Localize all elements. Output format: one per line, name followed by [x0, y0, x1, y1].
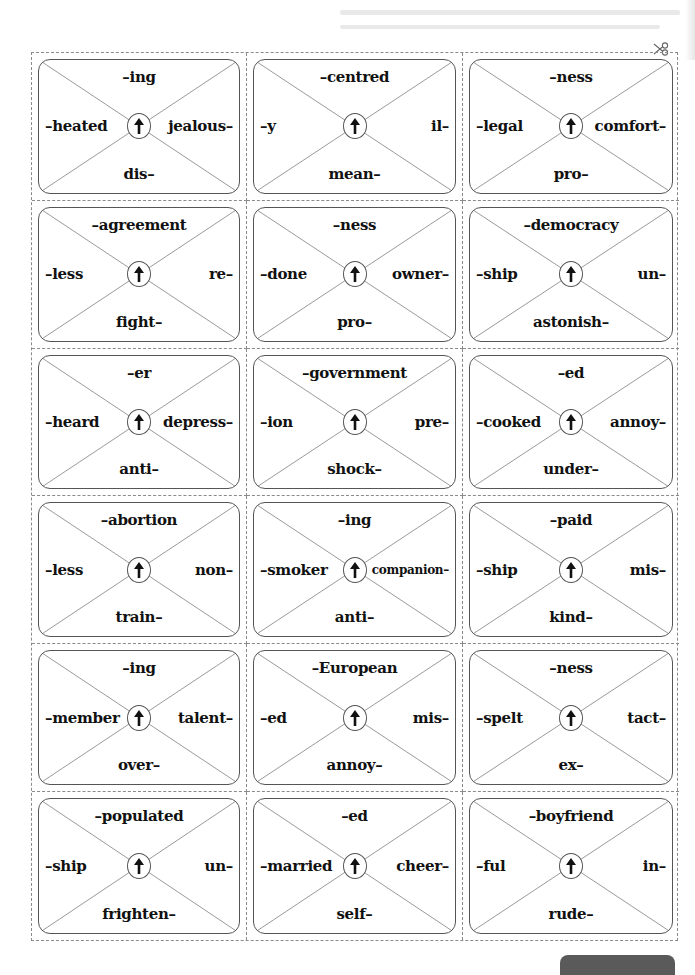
card-bottom-word: dis– [39, 165, 239, 183]
card-right-word: re– [209, 265, 233, 283]
card-left-word: –less [45, 265, 83, 283]
card-left-word: –smoker [260, 561, 328, 579]
card-left-word: –spelt [476, 709, 523, 727]
card-left-word: –heated [45, 117, 108, 135]
card-cell: –government–ionpre–shock– [247, 349, 463, 497]
card-left-word: –cooked [476, 413, 541, 431]
word-formation-card[interactable]: –government–ionpre–shock– [253, 355, 456, 490]
word-formation-card[interactable]: –ed–marriedcheer–self– [253, 798, 456, 934]
card-top-word: –democracy [470, 216, 672, 234]
card-left-word: –ship [45, 857, 87, 875]
card-top-word: –European [254, 659, 455, 677]
card-right-word: il– [431, 117, 449, 135]
up-arrow-icon [343, 113, 367, 139]
word-formation-card[interactable]: –ness–spelttact–ex– [469, 650, 673, 785]
up-arrow-icon [343, 557, 367, 583]
card-cell: –ness–legalcomfort–pro– [463, 53, 679, 201]
card-top-word: –ness [470, 659, 672, 677]
bleed-through-text [340, 10, 680, 15]
up-arrow-icon [127, 853, 151, 879]
page-edge-shadow [685, 0, 695, 60]
up-arrow-icon [559, 557, 583, 583]
card-bottom-word: ex– [470, 756, 672, 774]
card-cell: –er–hearddepress–anti– [32, 349, 247, 497]
card-top-word: –ness [254, 216, 455, 234]
card-right-word: mis– [630, 561, 666, 579]
card-bottom-word: frighten– [39, 905, 239, 923]
word-formation-card[interactable]: –ing–smokercompanion–anti– [253, 502, 456, 637]
card-left-word: –ship [476, 265, 518, 283]
card-left-word: –heard [45, 413, 99, 431]
card-cell: –abortion–lessnon–train– [32, 496, 247, 644]
up-arrow-icon [559, 853, 583, 879]
card-right-word: companion– [372, 563, 449, 577]
card-cell: –ness–spelttact–ex– [463, 644, 679, 792]
card-bottom-word: anti– [39, 460, 239, 478]
card-top-word: –populated [39, 807, 239, 825]
card-cell: –ness–doneowner–pro– [247, 201, 463, 349]
up-arrow-icon [343, 853, 367, 879]
card-cell: –ing–heatedjealous–dis– [32, 53, 247, 201]
card-cell: –ed–marriedcheer–self– [247, 792, 463, 940]
card-left-word: –done [260, 265, 307, 283]
card-cell: –agreement–lessre–fight– [32, 201, 247, 349]
card-right-word: owner– [392, 265, 449, 283]
word-formation-card[interactable]: –er–hearddepress–anti– [38, 355, 240, 490]
card-bottom-word: under– [470, 460, 672, 478]
word-formation-card[interactable]: –ing–heatedjealous–dis– [38, 59, 240, 194]
card-top-word: –er [39, 364, 239, 382]
card-cell: –ed–cookedannoy–under– [463, 349, 679, 497]
up-arrow-icon [343, 705, 367, 731]
card-right-word: depress– [163, 413, 233, 431]
card-left-word: –married [260, 857, 332, 875]
card-right-word: tact– [627, 709, 666, 727]
card-right-word: non– [195, 561, 233, 579]
word-formation-card[interactable]: –centred–yil–mean– [253, 59, 456, 194]
up-arrow-icon [127, 409, 151, 435]
word-formation-card[interactable]: –paid–shipmis–kind– [469, 502, 673, 637]
card-bottom-word: rude– [470, 905, 672, 923]
card-right-word: cheer– [396, 857, 449, 875]
word-formation-card[interactable]: –democracy–shipun–astonish– [469, 207, 673, 342]
word-formation-card[interactable]: –ness–legalcomfort–pro– [469, 59, 673, 194]
card-bottom-word: kind– [470, 608, 672, 626]
card-bottom-word: anti– [254, 608, 455, 626]
card-right-word: un– [205, 857, 233, 875]
card-cell: –ing–membertalent–over– [32, 644, 247, 792]
card-left-word: –member [45, 709, 120, 727]
card-right-word: un– [638, 265, 666, 283]
card-cell: –ing–smokercompanion–anti– [247, 496, 463, 644]
card-bottom-word: mean– [254, 165, 455, 183]
bleed-through-text [340, 25, 660, 29]
card-bottom-word: train– [39, 608, 239, 626]
word-formation-card[interactable]: –agreement–lessre–fight– [38, 207, 240, 342]
card-top-word: –agreement [39, 216, 239, 234]
card-cell: –democracy–shipun–astonish– [463, 201, 679, 349]
cut-out-card-sheet: –ing–heatedjealous–dis––centred–yil–mean… [31, 52, 678, 941]
card-bottom-word: pro– [470, 165, 672, 183]
up-arrow-icon [127, 705, 151, 731]
word-formation-card[interactable]: –abortion–lessnon–train– [38, 502, 240, 637]
card-top-word: –government [254, 364, 455, 382]
card-top-word: –ed [254, 807, 455, 825]
word-formation-card[interactable]: –populated–shipun–frighten– [38, 798, 240, 934]
word-formation-card[interactable]: –boyfriend–fulin–rude– [469, 798, 673, 934]
card-left-word: –y [260, 117, 276, 135]
card-bottom-word: annoy– [254, 756, 455, 774]
card-bottom-word: shock– [254, 460, 455, 478]
card-top-word: –boyfriend [470, 807, 672, 825]
card-left-word: –ed [260, 709, 287, 727]
word-formation-card[interactable]: –ed–cookedannoy–under– [469, 355, 673, 490]
card-cell: –populated–shipun–frighten– [32, 792, 247, 940]
card-bottom-word: over– [39, 756, 239, 774]
up-arrow-icon [559, 705, 583, 731]
card-top-word: –ed [470, 364, 672, 382]
word-formation-card[interactable]: –ing–membertalent–over– [38, 650, 240, 785]
card-bottom-word: astonish– [470, 313, 672, 331]
card-left-word: –less [45, 561, 83, 579]
card-right-word: pre– [415, 413, 449, 431]
card-top-word: –ing [254, 511, 455, 529]
word-formation-card[interactable]: –ness–doneowner–pro– [253, 207, 456, 342]
word-formation-card[interactable]: –European–edmis–annoy– [253, 650, 456, 785]
card-cell: –European–edmis–annoy– [247, 644, 463, 792]
